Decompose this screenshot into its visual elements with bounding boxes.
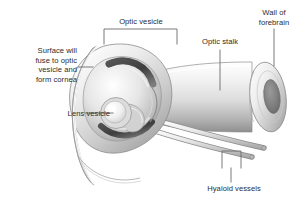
hyaloid-vessel-upper-tip <box>262 146 266 150</box>
label-optic-vesicle: Optic vesicle <box>104 17 178 27</box>
label-lens-vesicle: Lens vesicle <box>42 109 110 119</box>
label-wall-of-forebrain: Wall of forebrain <box>245 8 303 27</box>
hyaloid-vessel-lower-tip <box>250 155 254 159</box>
eye-development-diagram: Surface will fuse to optic vesicle and f… <box>0 0 305 210</box>
label-surface-will-fuse: Surface will fuse to optic vesicle and f… <box>3 46 77 84</box>
forebrain-wall-ring <box>246 60 290 134</box>
label-hyaloid-vessels: Hyaloid vessels <box>188 184 280 194</box>
diagram-artwork <box>0 0 305 210</box>
bracket-optic-vesicle <box>104 29 177 44</box>
label-optic-stalk: Optic stalk <box>190 37 250 47</box>
